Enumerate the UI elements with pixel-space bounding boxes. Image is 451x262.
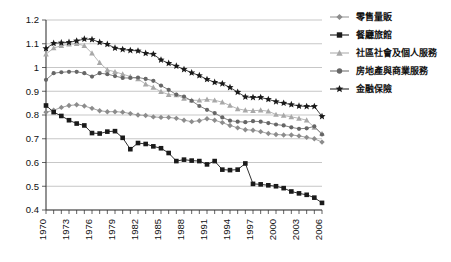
legend-label: 社區社會及個人服務 [355,47,438,58]
legend-label: 金融保險 [355,83,392,94]
series-marker [242,93,249,100]
series-marker [88,36,95,43]
series-marker [113,74,117,78]
series-marker [249,94,256,101]
chart-canvas: 0.40.50.60.70.80.911.11.2197019731976197… [0,0,451,262]
series-marker [266,121,270,125]
series-marker [143,81,149,86]
legend-label: 餐廳旅館 [355,29,392,40]
series-marker [203,76,210,83]
series-marker [281,132,286,137]
series-marker [165,60,172,67]
x-axis-tick-label: 1985 [152,219,163,240]
series-marker [297,191,302,196]
series-marker [98,71,102,75]
series-marker [51,110,56,115]
series-marker [303,103,310,110]
y-axis-tick-label: 0.4 [26,204,39,215]
series-marker [204,96,210,101]
series-marker [305,126,309,130]
series-marker [136,75,140,79]
x-axis-tick-label: 1979 [106,219,117,240]
series-marker [181,118,186,123]
series-marker [197,159,202,164]
series-marker [311,103,318,110]
x-axis-tick-label: 1976 [83,219,94,240]
series-marker [281,186,286,191]
y-axis-tick-label: 1.1 [26,38,39,49]
series-marker [243,127,248,132]
series-marker [227,103,233,108]
series-marker [105,72,109,76]
series-marker [127,47,134,54]
series-marker [104,41,111,48]
series-marker [159,146,164,151]
x-axis-tick-label: 1973 [60,219,71,240]
y-axis-tick-label: 0.6 [26,157,39,168]
series-marker [320,132,324,136]
series-marker [144,77,148,81]
series-marker [157,56,164,63]
series-marker [274,184,279,189]
series-marker [257,94,264,101]
series-marker [174,159,179,164]
series-marker [272,98,279,105]
series-marker [128,147,133,152]
legend-item[interactable]: 社區社會及個人服務 [330,47,438,58]
legend-swatch-marker [337,68,342,73]
series-line [46,39,322,116]
x-axis-tick-label: 1997 [244,219,255,240]
x-axis-tick-label: 2006 [313,219,324,240]
series-marker [113,129,118,134]
series-marker [90,74,94,78]
series-marker [288,101,295,108]
legend-item[interactable]: 金融保險 [330,83,392,94]
series-marker [59,70,63,74]
series-marker [120,109,125,114]
series-marker [235,167,240,172]
legend-swatch-marker [336,85,344,92]
series-marker [273,132,278,137]
x-axis-tick-label: 2000 [267,219,278,240]
legend-swatch-marker [336,14,342,20]
legend-swatch-marker [337,32,342,37]
series-marker [236,120,240,124]
series-marker [282,123,286,127]
y-axis-tick-label: 1 [34,62,39,73]
series-marker [235,106,241,111]
series-marker [259,120,263,124]
series-marker [151,79,155,83]
series-marker [52,71,56,75]
series-marker [297,127,301,131]
series-marker [228,168,233,173]
series-marker [205,162,210,167]
series-marker [82,123,87,128]
series-marker [204,116,209,121]
series-marker [251,119,255,123]
series-marker [312,136,317,141]
series-marker [227,123,232,128]
series-marker [105,109,110,114]
x-axis-tick-label: 1988 [175,219,186,240]
series-marker [44,103,49,108]
series-line [46,72,322,135]
series-marker [274,122,278,126]
legend-item[interactable]: 餐廳旅館 [330,29,392,40]
series-marker [143,142,148,147]
series-marker [220,115,224,119]
series-marker [205,108,209,112]
series-marker [280,99,287,106]
legend-item[interactable]: 房地產與商業服務 [330,65,429,76]
legend-label: 零售量販 [355,11,393,22]
legend-item[interactable]: 零售量販 [330,11,393,22]
y-axis-tick-label: 0.9 [26,86,39,97]
series-marker [228,119,232,123]
series-marker [120,136,125,141]
series-marker [90,131,95,136]
series-marker [182,157,187,162]
series-marker [211,79,218,86]
series-marker [159,83,163,87]
series-marker [121,76,125,80]
series-marker [81,35,88,42]
series-marker [59,105,64,110]
